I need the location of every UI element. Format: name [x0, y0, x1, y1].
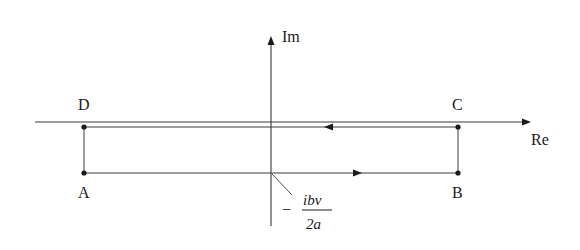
direction-arrow-right-icon	[353, 170, 362, 177]
point-b	[455, 170, 460, 175]
contour-diagram: Im Re D A C B − ibv 2a	[0, 0, 580, 250]
annotation-numerator: ibv	[303, 192, 322, 208]
pole-annotation: − ibv 2a	[282, 192, 332, 232]
real-axis-label: Re	[531, 131, 549, 148]
direction-arrow-left-icon	[324, 124, 333, 131]
point-d-label: D	[78, 96, 90, 113]
real-axis-arrow-icon	[522, 119, 531, 126]
imaginary-axis-arrow-icon	[268, 36, 275, 45]
annotation-minus-sign: −	[282, 201, 291, 218]
point-d	[81, 124, 86, 129]
point-a-label: A	[78, 184, 90, 201]
annotation-leader-line	[272, 174, 292, 195]
imaginary-axis-label: Im	[282, 28, 300, 45]
point-c	[455, 124, 460, 129]
annotation-denominator: 2a	[306, 216, 321, 232]
point-c-label: C	[452, 96, 463, 113]
point-a	[81, 170, 86, 175]
point-b-label: B	[452, 184, 463, 201]
